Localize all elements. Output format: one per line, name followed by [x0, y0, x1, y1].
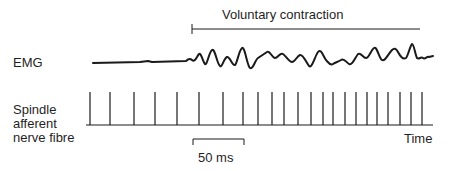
figure-canvas	[0, 0, 450, 171]
time-axis-label: Time	[404, 131, 432, 146]
emg-trace	[93, 44, 433, 68]
spindle-label-line2: afferent	[13, 116, 57, 131]
emg-label: EMG	[13, 55, 43, 70]
spike-train	[90, 92, 422, 125]
scale-bar	[193, 139, 244, 145]
voluntary-contraction-label: Voluntary contraction	[222, 7, 343, 22]
scale-bar-label: 50 ms	[198, 150, 233, 165]
spindle-label-line3: nerve fibre	[13, 130, 74, 145]
voluntary-contraction-bar	[192, 24, 420, 34]
spindle-label-line1: Spindle	[13, 102, 56, 117]
